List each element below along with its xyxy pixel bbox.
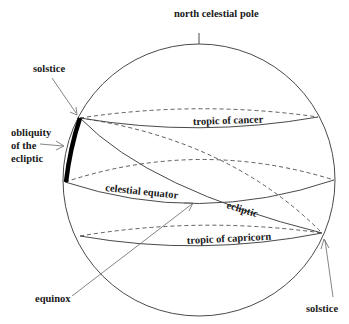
ecliptic-front [80,118,322,233]
ecliptic-back [80,118,322,233]
arrowhead-icon [321,239,329,249]
label-celestial-equator: celestial equator [105,182,179,201]
celestial-sphere-outline [63,44,335,316]
solstice-top-pointer [52,78,76,113]
label-obliquity-line1: obliquity [11,127,52,138]
label-solstice-top: solstice [33,63,65,74]
equinox-pointer [72,204,192,296]
label-tropic-of-capricorn: tropic of capricorn [187,231,272,246]
label-ecliptic: ecliptic [225,199,259,219]
celestial-sphere-diagram: north celestial pole solstice obliquity … [0,0,349,324]
obliquity-pointer [40,144,63,146]
label-obliquity-line3: ecliptic [11,153,43,164]
label-obliquity-line2: of the [11,140,37,151]
label-solstice-bottom: solstice [306,303,338,314]
arrowhead-icon [70,107,77,115]
label-equinox: equinox [35,293,71,304]
label-north-celestial-pole: north celestial pole [174,8,259,19]
solstice-bottom-pointer [325,240,333,297]
celestial-equator-back [65,159,334,182]
